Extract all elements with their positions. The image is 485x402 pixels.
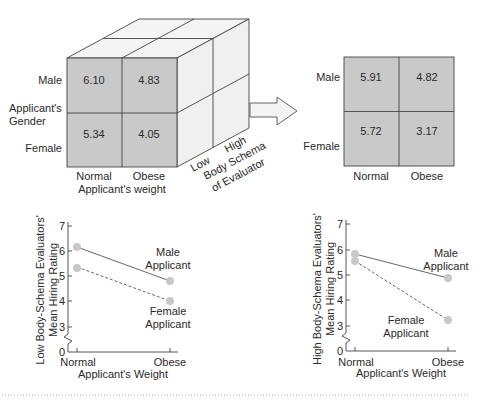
- y-tick-7: 7: [59, 220, 65, 232]
- x-axis-label: Applicant's Weight: [78, 368, 168, 380]
- cube-row-label-female: Female: [25, 142, 62, 154]
- cube-col-axis-label: Applicant's weight: [78, 183, 166, 195]
- chart-high-body-schema: 7 6 5 4 3 0 Normal Obese Applicant's Wei…: [311, 213, 469, 379]
- female-series-line: [77, 267, 170, 301]
- y-tick-4: 4: [337, 294, 343, 306]
- slice-value-male-normal: 5.91: [360, 71, 381, 83]
- figure-canvas: 6.10 4.83 5.34 4.05 Male Applicant's Gen…: [0, 0, 485, 402]
- slice-col-label-obese: Obese: [411, 170, 443, 182]
- cube-row-axis-label-2: Gender: [9, 115, 46, 127]
- y-tick-6: 6: [59, 245, 65, 257]
- slice-row-label-male: Male: [316, 71, 340, 83]
- y-axis-label-line1: High Body-Schema Evaluators': [311, 213, 323, 365]
- female-series-label-1: Female: [150, 305, 187, 317]
- slice-col-label-normal: Normal: [353, 170, 388, 182]
- x-axis-label: Applicant's Weight: [356, 367, 446, 379]
- chart-low-body-schema: 7 6 5 4 3 0 Normal Obese Applicant's Wei…: [34, 215, 191, 380]
- cube-col-label-obese: Obese: [133, 170, 165, 182]
- male-point-obese: [166, 277, 174, 285]
- y-axis-label-line2: Mean Hiring Rating: [324, 242, 336, 336]
- x-tick-obese: Obese: [154, 356, 186, 368]
- male-point-normal: [73, 243, 81, 251]
- y-tick-5: 5: [59, 270, 65, 282]
- male-series-label-2: Applicant: [145, 259, 190, 271]
- y-tick-4: 4: [59, 295, 65, 307]
- female-point-obese: [166, 297, 174, 305]
- cube-col-label-normal: Normal: [76, 170, 111, 182]
- slice-value-male-obese: 4.82: [416, 71, 437, 83]
- slice-value-female-normal: 5.72: [360, 125, 381, 137]
- arrow-right-icon: [250, 97, 297, 125]
- female-series-label-2: Applicant: [145, 318, 190, 330]
- cube-value-male-normal: 6.10: [83, 74, 104, 86]
- male-series-label-1: Male: [434, 247, 458, 259]
- y-tick-6: 6: [337, 244, 343, 256]
- female-series-label-2: Applicant: [383, 327, 428, 339]
- cube-value-male-obese: 4.83: [138, 74, 159, 86]
- female-point-normal: [73, 264, 81, 272]
- cube-row-axis-label-1: Applicant's: [9, 102, 62, 114]
- y-tick-3: 3: [337, 320, 343, 332]
- x-tick-normal: Normal: [60, 356, 95, 368]
- y-axis-label-line2: Mean Hiring Rating: [47, 243, 59, 337]
- female-point-normal: [351, 257, 359, 265]
- male-point-normal: [351, 250, 359, 258]
- y-tick-5: 5: [337, 269, 343, 281]
- male-series-label-2: Applicant: [423, 260, 468, 272]
- male-point-obese: [444, 274, 452, 282]
- slice-value-female-obese: 3.17: [416, 125, 437, 137]
- y-tick-7: 7: [337, 218, 343, 230]
- female-point-obese: [444, 316, 452, 324]
- female-series-label-1: Female: [388, 314, 425, 326]
- cube-value-female-normal: 5.34: [83, 128, 104, 140]
- male-series-label-1: Male: [156, 246, 180, 258]
- slice-row-label-female: Female: [303, 140, 340, 152]
- y-tick-3: 3: [59, 321, 65, 333]
- cube-value-female-obese: 4.05: [138, 128, 159, 140]
- cube-row-label-male: Male: [38, 74, 62, 86]
- y-axis-label-line1: Low Body-Schema Evaluators': [34, 215, 46, 364]
